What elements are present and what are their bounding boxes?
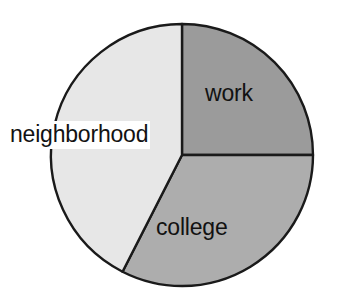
pie-slice-label-work: work xyxy=(205,82,253,105)
pie-slices-group xyxy=(51,24,313,286)
pie-chart-svg xyxy=(0,0,339,306)
pie-chart-figure: work college neighborhood xyxy=(0,0,339,306)
pie-slice-label-neighborhood: neighborhood xyxy=(8,121,150,149)
pie-slice-label-college: college xyxy=(156,216,228,239)
